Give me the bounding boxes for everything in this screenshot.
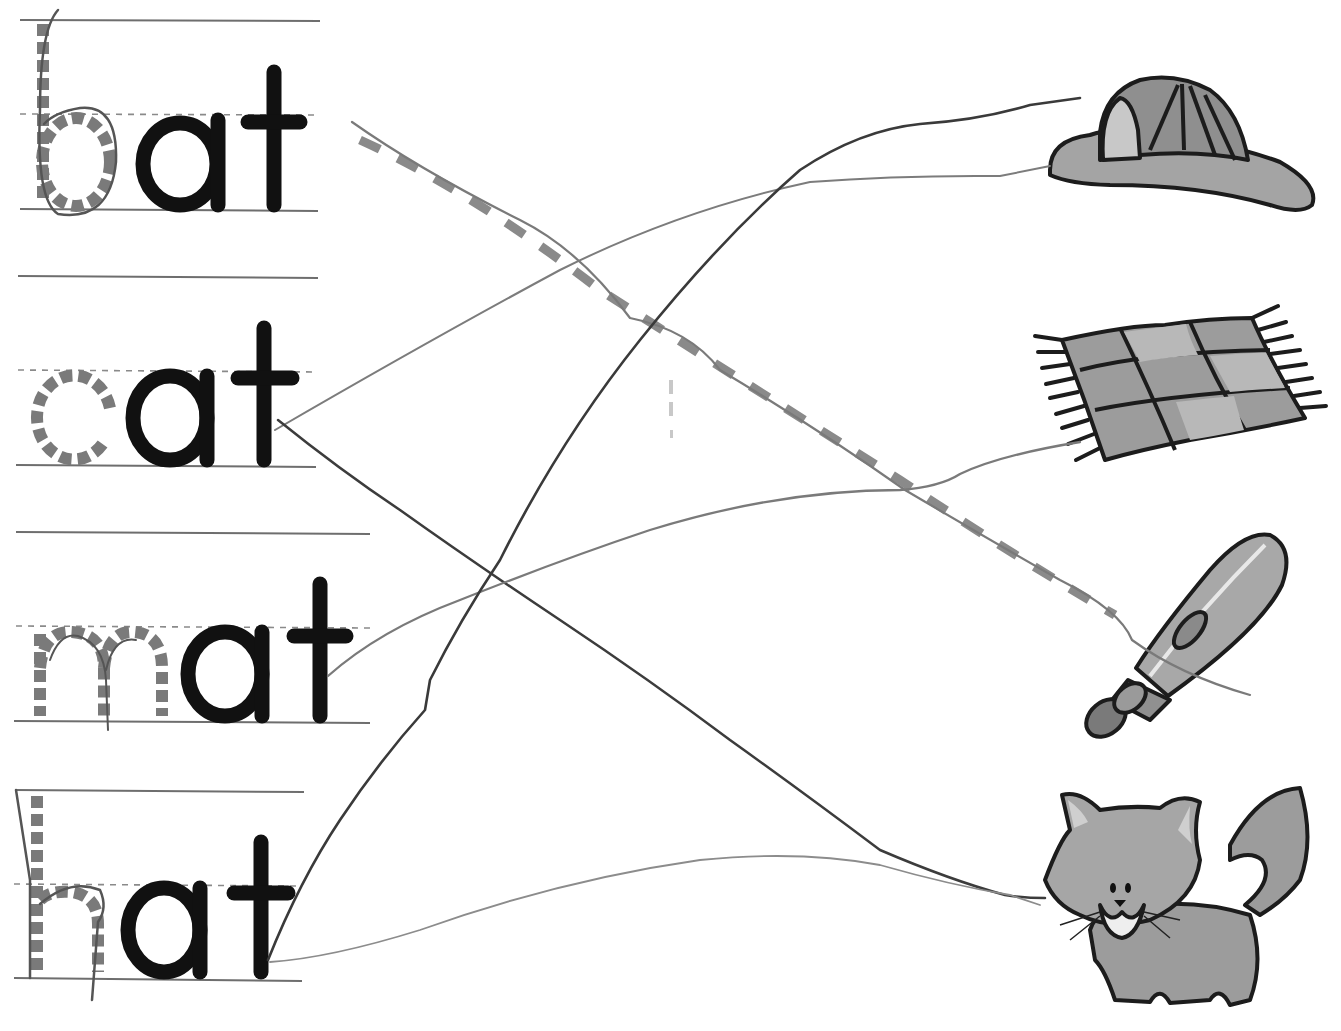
match-line-mat-to-mat xyxy=(328,442,1080,676)
match-line-hat-to-cat xyxy=(270,856,1040,962)
traced-letter-c xyxy=(37,375,110,459)
hat-icon xyxy=(1050,78,1313,210)
mat-icon xyxy=(1035,306,1326,460)
printed-letters-at xyxy=(188,584,346,716)
word-row-hat xyxy=(14,790,304,1000)
scan-artifact xyxy=(669,380,673,438)
word-row-mat xyxy=(14,532,370,730)
match-line-cat-to-hat xyxy=(275,166,1050,430)
traced-letter-h xyxy=(16,790,104,1000)
cat-icon xyxy=(1045,788,1308,1005)
printed-letters-at xyxy=(143,72,300,205)
word-row-cat xyxy=(16,276,318,467)
traced-letter-m xyxy=(40,632,162,730)
printed-letters-at xyxy=(133,328,292,460)
traced-letter-b xyxy=(39,10,116,215)
word-row-bat xyxy=(20,10,320,215)
bat-icon xyxy=(1079,534,1287,744)
printed-letters-at xyxy=(128,842,288,972)
match-line-hat-to-hat xyxy=(268,98,1080,960)
worksheet-page xyxy=(0,0,1341,1031)
match-line-cat-to-cat xyxy=(278,420,1045,898)
